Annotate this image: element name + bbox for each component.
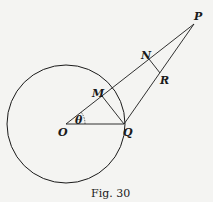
segment-QP xyxy=(124,24,194,124)
segment-QM xyxy=(102,96,124,124)
label-theta: θ xyxy=(75,114,83,127)
diagram-canvas: θ O Q M N R P Fig. 30 xyxy=(0,0,213,202)
label-R: R xyxy=(159,74,169,87)
label-N: N xyxy=(140,49,152,62)
label-Q: Q xyxy=(123,126,133,139)
segment-OP xyxy=(66,24,194,124)
figure-caption: Fig. 30 xyxy=(91,187,130,200)
label-O: O xyxy=(58,126,68,139)
label-P: P xyxy=(193,10,203,23)
label-M: M xyxy=(91,87,105,100)
geometry-figure: θ O Q M N R P Fig. 30 xyxy=(0,0,213,202)
